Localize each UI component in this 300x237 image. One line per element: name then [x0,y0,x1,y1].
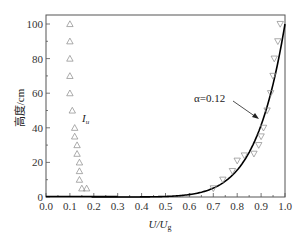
y-tick-label: 60 [32,87,44,99]
y-tick-label: 80 [32,53,44,65]
x-tick-label: 0.6 [183,200,197,212]
plot-frame [46,15,285,197]
y-tick-label: 100 [27,18,44,30]
iu-series-markers [67,21,90,191]
velocity-series-markers [210,21,283,191]
x-tick-label: 0.3 [111,200,125,212]
power-law-curve [46,24,285,197]
x-tick-label: 0.2 [87,200,101,212]
iu-label: Iu [81,112,90,126]
alpha-annotation: α=0.12 [194,92,225,104]
y-tick-label: 0 [38,191,44,203]
x-tick-label: 0.1 [63,200,77,212]
alpha-arrow [233,101,259,119]
y-tick-label: 40 [32,122,44,134]
x-tick-label: 0.8 [230,200,244,212]
x-tick-label: 0.5 [159,200,173,212]
y-tick-label: 20 [32,156,44,168]
x-tick-label: 0.9 [254,200,268,212]
x-tick-label: 1.0 [278,200,292,212]
chart: 0.00.10.20.30.40.50.60.70.80.91.0 020406… [0,0,300,237]
x-tick-label: 0.4 [135,200,149,212]
x-axis-title: U/Ug [149,218,172,232]
x-tick-label: 0.7 [206,200,220,212]
y-axis-title: 高度/cm [13,88,26,127]
